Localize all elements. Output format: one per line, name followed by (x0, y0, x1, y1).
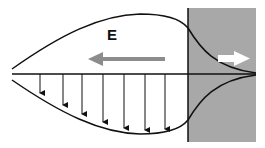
field-direction-arrow (88, 52, 165, 66)
field-label: E (107, 26, 117, 43)
field-vector-arrows (40, 74, 165, 130)
evanescent-wave-diagram (0, 0, 265, 148)
medium-region (188, 8, 256, 142)
